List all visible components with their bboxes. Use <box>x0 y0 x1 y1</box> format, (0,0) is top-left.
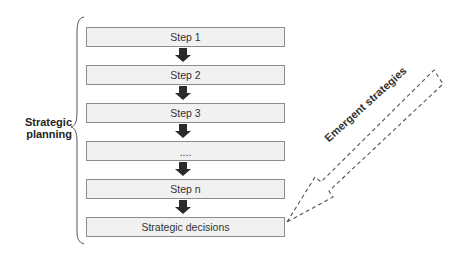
step-box-3: Step 3 <box>86 103 285 123</box>
down-arrow-icon <box>175 86 191 100</box>
down-arrow-icon <box>175 48 191 62</box>
down-arrow-icon <box>175 162 191 176</box>
step-label: Strategic decisions <box>141 221 229 233</box>
step-label: .... <box>180 146 192 158</box>
down-arrow-icon <box>175 124 191 138</box>
step-box-1: Step 1 <box>86 27 285 47</box>
step-label: Step 2 <box>170 69 200 81</box>
side-label-line1: Strategic <box>18 116 72 128</box>
step-box-2: Step 2 <box>86 65 285 85</box>
strategic-decisions-box: Strategic decisions <box>86 217 285 237</box>
step-label: Step n <box>170 183 200 195</box>
step-label: Step 3 <box>170 107 200 119</box>
side-label-line2: planning <box>18 128 72 140</box>
dashed-arrow-icon <box>287 70 443 222</box>
step-box-ellipsis: .... <box>86 141 285 161</box>
step-label: Step 1 <box>170 31 200 43</box>
down-arrow-icon <box>175 200 191 214</box>
diagram-canvas: Strategic planning Step 1 Step 2 Step 3 … <box>0 0 465 256</box>
step-box-n: Step n <box>86 179 285 199</box>
strategic-planning-label: Strategic planning <box>18 116 72 140</box>
curly-brace-icon <box>71 17 84 244</box>
